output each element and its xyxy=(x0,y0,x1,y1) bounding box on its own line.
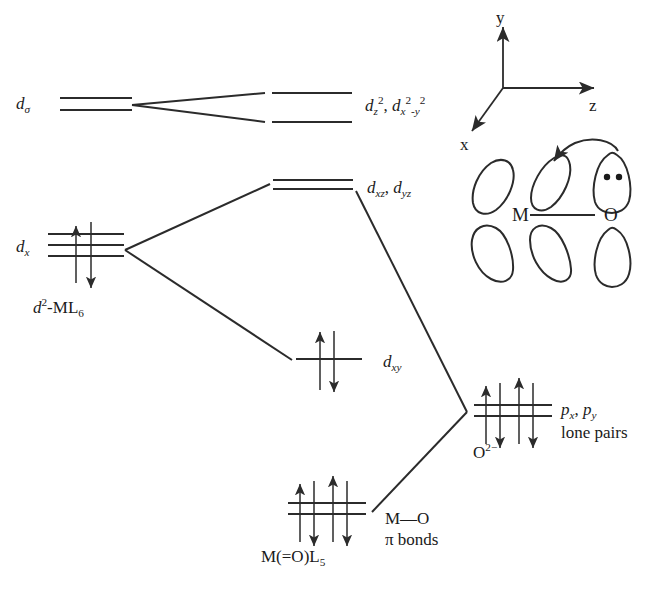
label-d-x: dx xyxy=(16,237,29,260)
connector-pxpy-pibonds xyxy=(372,412,467,512)
metal-lobe-lower-right xyxy=(530,226,571,282)
lone-pair-dot-right xyxy=(616,174,622,180)
connector-dx-branches xyxy=(125,184,292,360)
label-atom-m: M xyxy=(512,204,529,226)
electron-pair-d-xy xyxy=(320,331,334,392)
electron-pairs-mo-pi xyxy=(300,476,347,546)
label-axis-y: y xyxy=(496,8,505,28)
label-pi-bonds: π bonds xyxy=(385,529,438,550)
metal-lobe-upper-right xyxy=(531,155,570,210)
lone-pair-dot-left xyxy=(604,174,610,180)
mo-diagram-canvas xyxy=(0,0,663,592)
x-axis-arrow xyxy=(472,88,503,131)
metal-lobe-lower-left xyxy=(472,226,513,282)
label-fragment-o2minus: O2− xyxy=(473,441,497,463)
label-dz2-dx2y2: dz2, dx2-y2 xyxy=(365,94,425,118)
donation-curved-arrow xyxy=(554,140,618,161)
connector-d-sigma-split xyxy=(132,93,265,122)
label-px-py: px, py xyxy=(561,399,628,422)
label-axis-z: z xyxy=(589,96,597,116)
label-fragment-d2ml6: d2-ML6 xyxy=(33,296,84,320)
level-dz2-dx2y2 xyxy=(272,93,352,122)
label-axis-x: x xyxy=(460,135,469,155)
oxygen-lobe-lower xyxy=(595,228,631,287)
electron-pairs-px-py xyxy=(486,378,533,448)
level-d-sigma xyxy=(60,98,132,110)
label-fragment-mol5: M(=O)L5 xyxy=(261,547,325,570)
label-d-xy: dxy xyxy=(383,352,401,375)
label-atom-o: O xyxy=(604,204,618,226)
label-mo-bond: M—O xyxy=(385,508,438,529)
level-d-x xyxy=(48,234,124,256)
label-dxz-dyz: dxz, dyz xyxy=(367,178,411,201)
level-dxz-dyz xyxy=(273,180,353,189)
label-d-sigma: dσ xyxy=(16,94,30,117)
metal-lobe-upper-left xyxy=(473,160,514,214)
connector-dxzdyz-pibonds xyxy=(356,191,467,412)
mo-diagram: dσ dz2, dx2-y2 dxz, dyz dx d2-ML6 dxy px… xyxy=(0,0,663,592)
label-lone-pairs: lone pairs xyxy=(561,422,628,443)
label-px-py-lone-pairs: px, py lone pairs xyxy=(561,399,628,444)
label-mo-pi-bonds: M—O π bonds xyxy=(385,508,438,551)
axes-inset xyxy=(472,27,594,131)
